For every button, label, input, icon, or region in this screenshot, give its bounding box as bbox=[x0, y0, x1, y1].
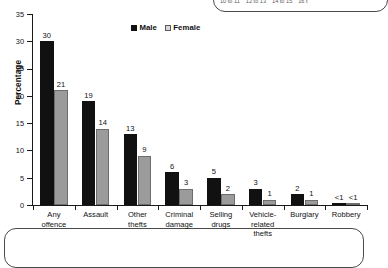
bar-value-label: 2 bbox=[216, 184, 240, 193]
y-tick-label: 15 bbox=[6, 119, 24, 128]
female-swatch-icon bbox=[165, 25, 171, 31]
legend-label-male: Male bbox=[140, 23, 157, 32]
x-category-label: Other thefts bbox=[114, 210, 162, 229]
bar-male-7 bbox=[332, 203, 346, 205]
bar-value-label: 13 bbox=[119, 124, 143, 133]
x-category-label: Criminal damage bbox=[155, 210, 203, 229]
x-category-label: Robbery bbox=[322, 210, 370, 220]
x-category-label: Selling drugs bbox=[197, 210, 245, 229]
x-category-label: Vehicle- related thefts bbox=[239, 210, 287, 239]
legend-label-female: Female bbox=[173, 23, 200, 32]
bar-female-0 bbox=[54, 90, 68, 205]
bar-male-0 bbox=[40, 41, 54, 205]
y-axis-title: Percentage bbox=[14, 38, 23, 128]
y-tick-label: 10 bbox=[6, 146, 24, 155]
x-category-label: Any offence bbox=[30, 210, 78, 229]
x-category-label: Burglary bbox=[281, 210, 329, 220]
y-tick bbox=[27, 41, 32, 42]
y-tick-label: 0 bbox=[6, 201, 24, 210]
y-tick bbox=[27, 96, 32, 97]
bar-value-label: 14 bbox=[91, 118, 115, 127]
bar-female-6 bbox=[305, 200, 319, 206]
bar-female-5 bbox=[263, 200, 277, 206]
y-tick bbox=[27, 205, 32, 206]
legend-item-female: Female bbox=[165, 23, 200, 32]
male-swatch-icon bbox=[131, 25, 137, 31]
y-tick bbox=[27, 150, 32, 151]
x-category-label: Assault bbox=[72, 210, 120, 220]
bar-female-1 bbox=[96, 129, 110, 205]
bar-value-label: 1 bbox=[300, 189, 324, 198]
bar-value-label: 21 bbox=[49, 80, 73, 89]
bar-value-label: 9 bbox=[133, 145, 157, 154]
y-tick-label: 35 bbox=[6, 10, 24, 19]
bar-male-1 bbox=[82, 101, 96, 205]
bar-female-2 bbox=[138, 156, 152, 205]
bar-value-label: 5 bbox=[202, 167, 226, 176]
y-tick bbox=[27, 178, 32, 179]
bar-female-4 bbox=[221, 194, 235, 205]
bar-value-label: 3 bbox=[244, 178, 268, 187]
y-tick-label: 25 bbox=[6, 64, 24, 73]
bar-value-label: 3 bbox=[174, 178, 198, 187]
chart-legend: Male Female bbox=[131, 23, 200, 32]
y-tick bbox=[27, 69, 32, 70]
y-tick-label: 30 bbox=[6, 37, 24, 46]
y-tick bbox=[27, 123, 32, 124]
y-axis-line bbox=[32, 14, 33, 206]
y-tick-label: 5 bbox=[6, 174, 24, 183]
y-tick-label: 20 bbox=[6, 92, 24, 101]
bar-value-label: 19 bbox=[77, 91, 101, 100]
bar-value-label: 1 bbox=[258, 189, 282, 198]
y-tick bbox=[27, 14, 32, 15]
bar-female-7 bbox=[346, 203, 360, 205]
bar-value-label: <1 bbox=[341, 193, 365, 202]
legend-item-male: Male bbox=[131, 23, 157, 32]
bar-value-label: 30 bbox=[35, 31, 59, 40]
bar-value-label: 6 bbox=[160, 162, 184, 171]
bar-female-3 bbox=[179, 189, 193, 205]
